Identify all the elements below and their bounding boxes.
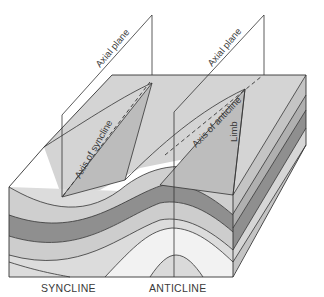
anticline-caption: ANTICLINE bbox=[149, 282, 207, 294]
fold-block-diagram: Axial plane Axial plane Axis of syncline… bbox=[0, 0, 324, 297]
axial-plane-right-label: Axial plane bbox=[205, 26, 243, 69]
axial-plane-left-label: Axial plane bbox=[93, 27, 131, 70]
limb-label: Limb bbox=[228, 121, 239, 142]
syncline-caption: SYNCLINE bbox=[41, 282, 96, 294]
